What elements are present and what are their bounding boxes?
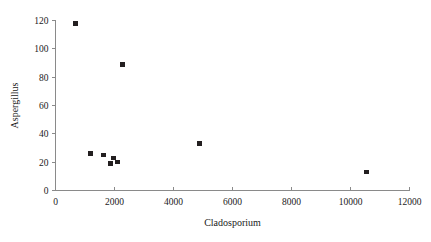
y-axis-title: Aspergillus <box>9 82 20 128</box>
y-tick-label: 0 <box>44 186 49 196</box>
data-point <box>88 151 93 156</box>
data-point <box>120 62 125 67</box>
chart-canvas: 020406080100120 Aspergillus 020004000600… <box>0 0 431 242</box>
data-point <box>111 156 116 161</box>
y-tick-label: 120 <box>34 16 49 26</box>
y-tick-label: 100 <box>34 44 49 54</box>
x-axis-ticks: 020004000600080001000012000 <box>53 187 422 207</box>
x-tick-label: 4000 <box>164 197 183 207</box>
x-tick-label: 12000 <box>398 197 422 207</box>
data-point <box>108 161 113 166</box>
x-axis-title: Cladosporium <box>204 217 261 228</box>
data-point <box>73 21 78 26</box>
x-tick-label: 6000 <box>223 197 242 207</box>
scatter-chart-figure: 020406080100120 Aspergillus 020004000600… <box>0 0 431 242</box>
data-point-layer <box>73 21 369 174</box>
x-tick-label: 2000 <box>105 197 124 207</box>
x-tick-label: 0 <box>53 197 58 207</box>
x-tick-label: 8000 <box>282 197 301 207</box>
x-tick-label: 10000 <box>339 197 363 207</box>
y-tick-label: 80 <box>39 73 49 83</box>
data-point <box>197 141 202 146</box>
data-point <box>115 160 120 165</box>
y-tick-label: 20 <box>39 158 49 168</box>
y-axis-ticks: 020406080100120 <box>34 16 55 196</box>
y-tick-label: 60 <box>39 101 49 111</box>
y-axis-group: 020406080100120 Aspergillus <box>9 16 56 196</box>
data-point <box>364 170 369 175</box>
data-point <box>101 153 106 158</box>
x-axis-group: 020004000600080001000012000 Cladosporium <box>53 187 422 228</box>
y-tick-label: 40 <box>39 129 49 139</box>
